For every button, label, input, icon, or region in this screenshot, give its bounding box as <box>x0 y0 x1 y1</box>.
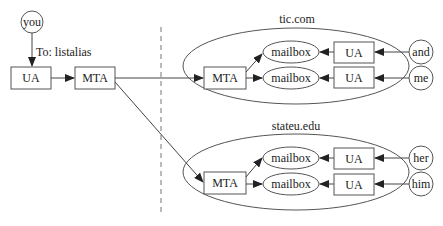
tic-mailbox-1-label: mailbox <box>271 45 310 59</box>
stateu-ua-2-label: UA <box>345 178 363 192</box>
sender-ua-label: UA <box>22 71 40 85</box>
person-you-label: you <box>23 15 41 29</box>
edge-label-to-listalias: To: listalias <box>36 45 92 59</box>
person-and-label: and <box>412 45 429 59</box>
person-her-label: her <box>413 151 428 165</box>
edge-mta-to-stateu-mta <box>115 82 203 182</box>
stateu-mailbox-1-label: mailbox <box>271 151 310 165</box>
domain-tic-com-boundary <box>183 28 409 104</box>
tic-ua-2-label: UA <box>345 71 363 85</box>
edge-tic-mta-to-mailbox-1 <box>246 54 262 72</box>
edge-stateu-mta-to-mailbox-1 <box>246 158 262 177</box>
domain-stateu-edu: stateu.edu MTA mailbox mailbox UA UA her… <box>183 119 433 210</box>
domain-tic-com: tic.com MTA mailbox mailbox UA UA and me <box>183 12 433 104</box>
tic-mailbox-2-label: mailbox <box>271 71 310 85</box>
mail-delivery-diagram: you To: listalias UA MTA tic.com MTA mai… <box>0 0 443 226</box>
stateu-mailbox-2-label: mailbox <box>271 177 310 191</box>
tic-mta-label: MTA <box>212 71 238 85</box>
stateu-mta-label: MTA <box>212 176 238 190</box>
domain-stateu-edu-label: stateu.edu <box>272 119 320 133</box>
sender-group: you To: listalias UA MTA <box>11 11 115 89</box>
stateu-ua-1-label: UA <box>345 152 363 166</box>
person-him-label: him <box>412 177 431 191</box>
tic-ua-1-label: UA <box>345 46 363 60</box>
person-me-label: me <box>414 71 429 85</box>
domain-tic-com-label: tic.com <box>279 12 315 26</box>
sender-mta-label: MTA <box>82 71 108 85</box>
